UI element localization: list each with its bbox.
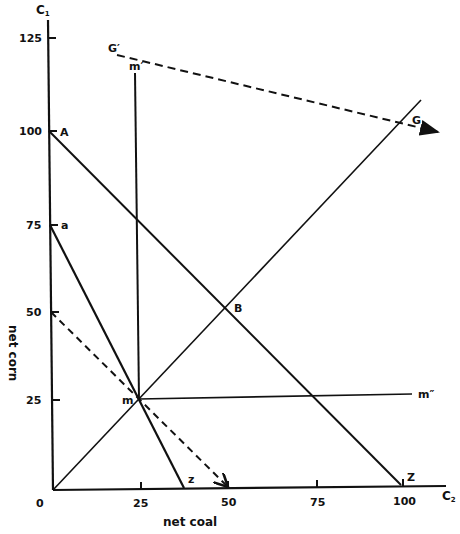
point-Gprime-label: G′ bbox=[108, 42, 120, 55]
y-tick-25: 25 bbox=[26, 394, 41, 407]
x-axis-label: C2 bbox=[442, 489, 456, 504]
point-Z-label: Z bbox=[407, 471, 415, 484]
point-z-label: z bbox=[188, 473, 194, 486]
point-mdoubleprime-label: m″ bbox=[418, 388, 434, 401]
point-m-label: m bbox=[122, 394, 133, 407]
y-tick-50: 50 bbox=[26, 306, 42, 319]
production-possibility-diagram: C1 C2 125 100 75 50 25 0 25 50 75 100 ne… bbox=[0, 0, 460, 534]
line-a-z bbox=[50, 225, 184, 488]
point-A-label: A bbox=[60, 126, 69, 139]
x-axis bbox=[53, 486, 446, 490]
axes bbox=[48, 20, 446, 490]
x-tick-25: 25 bbox=[133, 497, 148, 510]
origin-label: 0 bbox=[36, 497, 44, 510]
point-a-label: a bbox=[61, 219, 68, 232]
y-tick-75: 75 bbox=[26, 219, 41, 232]
y-tick-125: 125 bbox=[19, 32, 42, 45]
y-tick-100: 100 bbox=[19, 125, 42, 138]
point-mprime-label: m′ bbox=[129, 60, 143, 73]
x-tick-100: 100 bbox=[393, 495, 416, 508]
line-Gprime-G-dashed bbox=[117, 55, 438, 132]
x-axis-title: net coal bbox=[163, 515, 217, 529]
line-m-mprime bbox=[135, 73, 139, 399]
line-m-mdoubleprime bbox=[139, 394, 412, 399]
x-tick-50: 50 bbox=[221, 496, 237, 509]
y-axis bbox=[48, 20, 53, 490]
line-origin-G bbox=[53, 100, 421, 490]
x-tick-75: 75 bbox=[310, 496, 325, 509]
point-B-label: B bbox=[234, 302, 242, 315]
point-G-label: G bbox=[412, 114, 421, 127]
y-axis-title: net corn bbox=[6, 325, 20, 381]
y-axis-label: C1 bbox=[36, 3, 50, 18]
